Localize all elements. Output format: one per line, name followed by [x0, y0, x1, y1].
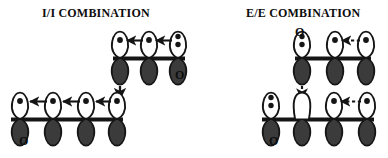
electron-dot [175, 34, 180, 39]
electron-dot [332, 37, 338, 43]
orbital-diagram-canvas [0, 0, 388, 158]
orbital-combination-figure: I/I COMBINATION E/E COMBINATION O O O O [0, 0, 388, 158]
atom-label-o-ee-top: O [295, 25, 304, 40]
electron-dot [146, 37, 152, 43]
electron-dot [117, 37, 123, 43]
electron-dot [363, 37, 369, 43]
electron-dot [83, 98, 89, 104]
electron-dot [268, 103, 273, 108]
electron-dot [114, 98, 120, 104]
fragment-ee-bottom [262, 93, 375, 146]
panel-title-ii: I/I COMBINATION [42, 6, 150, 21]
electron-dot [364, 98, 370, 104]
electron-dot [268, 95, 273, 100]
atom-label-o-ii-bottom: O [19, 134, 28, 149]
electron-dot [331, 98, 337, 104]
framework-bar [11, 118, 123, 122]
electron-dot [17, 98, 23, 104]
atom-label-o-ee-bottom: O [269, 134, 278, 149]
panel-title-ee: E/E COMBINATION [246, 6, 360, 21]
electron-dot [175, 42, 180, 47]
atom-label-o-ii-top: O [175, 68, 184, 83]
fragment-ee-top [294, 32, 375, 85]
electron-dot [50, 98, 56, 104]
electron-dot [299, 42, 304, 47]
framework-bar [262, 118, 374, 122]
